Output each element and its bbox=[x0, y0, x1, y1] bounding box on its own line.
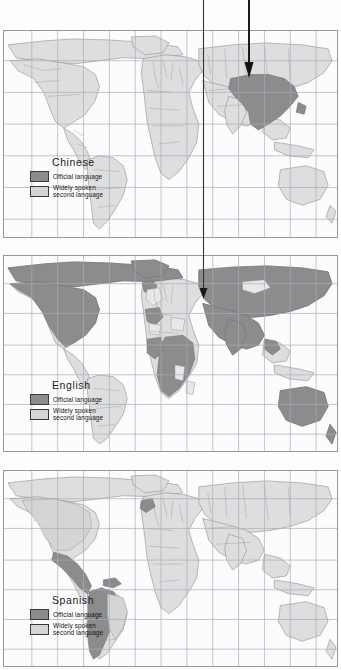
legend-row-second: Widely spoken second language bbox=[30, 184, 103, 198]
legend-label-official: Official language bbox=[53, 173, 102, 180]
legend-spanish: Spanish Official language Widely spoken … bbox=[30, 594, 103, 638]
legend-swatch-official-icon bbox=[30, 394, 49, 405]
legend-label-second: Widely spoken second language bbox=[53, 622, 103, 636]
legend-row-second: Widely spoken second language bbox=[30, 622, 103, 636]
legend-row-official: Official language bbox=[30, 609, 103, 620]
legend-swatch-second-icon bbox=[30, 186, 49, 197]
legend-swatch-second-icon bbox=[30, 409, 49, 420]
legend-row-official: Official language bbox=[30, 171, 103, 182]
legend-label-second: Widely spoken second language bbox=[53, 184, 103, 198]
legend-label-official: Official language bbox=[53, 611, 102, 618]
map-panel-spanish: Spanish Official language Widely spoken … bbox=[3, 470, 338, 667]
map-frame-spanish: Spanish Official language Widely spoken … bbox=[3, 470, 338, 667]
legend-title-english: English bbox=[52, 379, 103, 391]
legend-title-chinese: Chinese bbox=[52, 156, 103, 168]
legend-row-second: Widely spoken second language bbox=[30, 407, 103, 421]
legend-label-second: Widely spoken second language bbox=[53, 407, 103, 421]
map-panel-chinese: Chinese Official language Widely spoken … bbox=[3, 30, 338, 238]
legend-english: English Official language Widely spoken … bbox=[30, 379, 103, 423]
map-frame-chinese: Chinese Official language Widely spoken … bbox=[3, 30, 338, 238]
legend-title-spanish: Spanish bbox=[52, 594, 103, 606]
map-frame-english: English Official language Widely spoken … bbox=[3, 255, 338, 452]
legend-label-official: Official language bbox=[53, 396, 102, 403]
legend-swatch-official-icon bbox=[30, 171, 49, 182]
legend-swatch-official-icon bbox=[30, 609, 49, 620]
legend-swatch-second-icon bbox=[30, 624, 49, 635]
map-panel-english: English Official language Widely spoken … bbox=[3, 255, 338, 452]
figure-page: Chinese Official language Widely spoken … bbox=[0, 0, 341, 670]
graticule-chinese bbox=[4, 31, 337, 237]
legend-row-official: Official language bbox=[30, 394, 103, 405]
legend-chinese: Chinese Official language Widely spoken … bbox=[30, 156, 103, 200]
